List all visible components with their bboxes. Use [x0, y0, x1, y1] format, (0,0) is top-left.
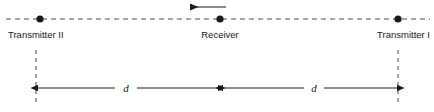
diagram-svg: Transmitter II Receiver Transmitter I d …	[0, 0, 434, 112]
dimension-right: d	[223, 82, 397, 94]
dimension-left: d	[38, 82, 218, 94]
dimension-left-label: d	[123, 82, 129, 94]
transmitter-one-dot	[394, 15, 401, 22]
node-labels: Transmitter II Receiver Transmitter I	[8, 29, 430, 40]
diagram-canvas: Transmitter II Receiver Transmitter I d …	[0, 0, 434, 112]
extension-lines	[36, 50, 398, 106]
receiver-label: Receiver	[201, 29, 239, 40]
dimension-right-label: d	[311, 82, 317, 94]
transmitter-one-label: Transmitter I	[377, 29, 430, 40]
receiver-dot	[216, 15, 223, 22]
transmitter-two-label: Transmitter II	[8, 29, 64, 40]
transmitter-two-dot	[36, 15, 43, 22]
